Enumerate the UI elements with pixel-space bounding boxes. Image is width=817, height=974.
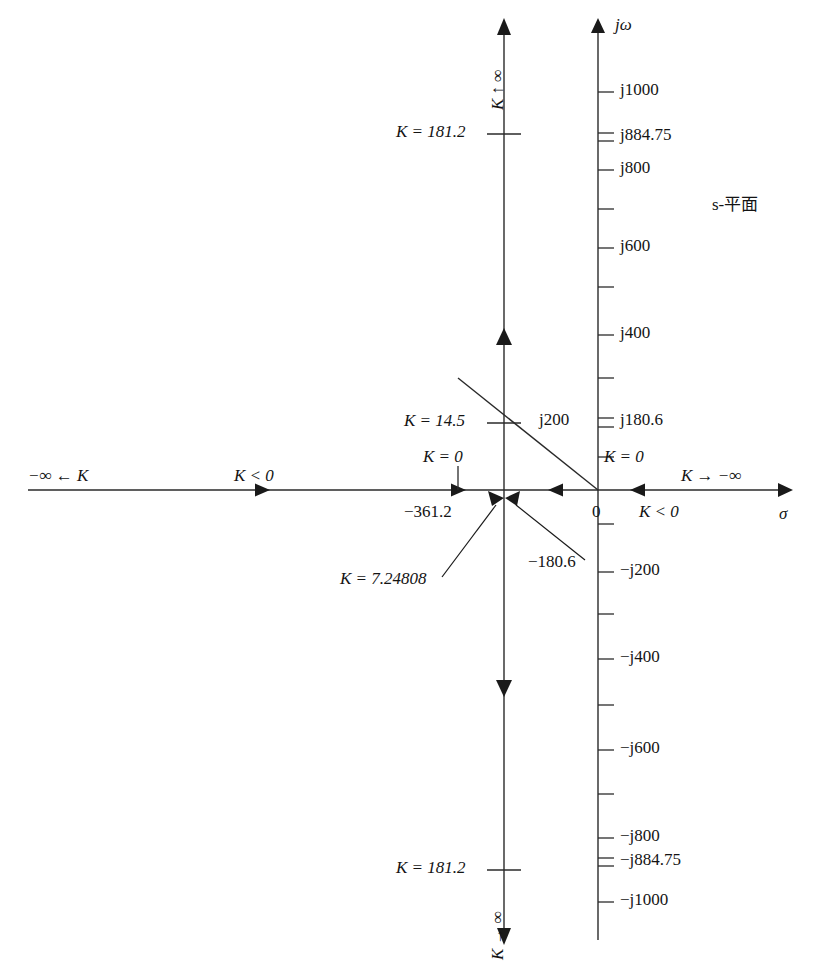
imag-tick-label-neg-j400: −j400	[620, 648, 660, 665]
imag-tick-label-neg-j600: −j600	[620, 739, 660, 756]
sigma-axis-arrowhead	[778, 483, 793, 497]
imag-tick-label-j200: j200	[539, 411, 569, 428]
imag-tick-label-j884-75: j884.75	[620, 126, 671, 143]
gain-label-k-7-24808: K = 7.24808	[340, 570, 427, 587]
imag-tick-label-j1000: j1000	[620, 81, 659, 98]
gain-label-k-181-2-bottom: K = 181.2	[396, 859, 466, 876]
direction-label-k-less-0-right: K < 0	[639, 503, 679, 520]
gain-label-k-0-left: K = 0	[423, 448, 463, 465]
root-locus-plot-svg	[0, 0, 817, 974]
imag-tick-label-neg-j800: −j800	[620, 827, 660, 844]
imag-tick-label-j600: j600	[620, 237, 650, 254]
imag-tick-label-neg-j884-75: −j884.75	[620, 851, 681, 868]
vertical-branch-top-arrowhead	[497, 18, 511, 35]
gain-label-k-181-2-top: K = 181.2	[396, 123, 466, 140]
diagonal-asymptote-branch	[458, 378, 598, 490]
imag-tick-label-j800: j800	[620, 159, 650, 176]
s-plane-label: s-平面	[712, 196, 758, 213]
jomega-axis-label: jω	[615, 16, 632, 33]
imag-tick-label-neg-j1000: −j1000	[620, 891, 668, 908]
direction-label-k-to-minus-inf: K → −∞	[681, 467, 741, 484]
point-label-origin: 0	[592, 503, 601, 520]
gain-label-k-14-5: K = 14.5	[404, 412, 465, 429]
point-label-neg-361-2: −361.2	[404, 503, 452, 520]
imag-tick-label-j180-6: j180.6	[620, 411, 663, 428]
direction-label-k-less-0-left: K < 0	[234, 467, 274, 484]
imag-tick-label-neg-j200: −j200	[620, 561, 660, 578]
direction-label-k-down-infinity: K → ∞	[489, 911, 506, 960]
root-locus-figure: jω σ s-平面 j1000 j884.75 j800 j600 j400 j…	[0, 0, 817, 974]
point-label-neg-180-6: −180.6	[528, 553, 576, 570]
real-axis	[28, 483, 793, 497]
cropped-caption-strip	[4, 962, 7, 974]
vertical-locus-branch	[496, 18, 512, 945]
jomega-axis-arrowhead	[591, 18, 605, 33]
imag-tick-label-j400: j400	[620, 324, 650, 341]
sigma-axis-label: σ	[779, 505, 787, 522]
direction-label-minus-inf-left: −∞ ← K	[28, 467, 88, 484]
imaginary-axis-ticks	[598, 92, 614, 902]
gain-label-k-0-origin: K = 0	[604, 448, 644, 465]
imaginary-axis	[591, 18, 605, 940]
direction-label-k-up-infinity: K ↑ ∞	[489, 70, 506, 110]
